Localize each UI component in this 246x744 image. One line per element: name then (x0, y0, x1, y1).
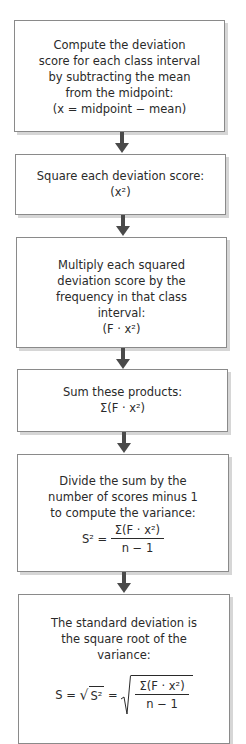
step-3-line-2: deviation score by the (17, 273, 226, 289)
sqrt-radicand: S² (89, 686, 105, 704)
arrow-down-icon (117, 572, 131, 593)
variance-numerator: Σ(F · x²) (111, 522, 164, 539)
step-4-box: Sum these products: Σ(F · x²) (17, 369, 228, 432)
stddev-eq: = (108, 688, 118, 702)
step-2-line-1: Square each deviation score: (16, 168, 225, 184)
stddev-numerator: Σ(F · x²) (135, 678, 188, 695)
step-6-line-2: the square root of the (19, 631, 229, 647)
step-6-line-1: The standard deviation is (19, 615, 229, 631)
step-5-line-1: Divide the sum by the (18, 473, 228, 489)
step-3-box: Multiply each squared deviation score by… (16, 237, 227, 348)
step-4-line-1: Sum these products: (18, 384, 227, 400)
stddev-fraction: Σ(F · x²) n − 1 (135, 678, 188, 712)
step-3-formula: (F · x²) (17, 321, 226, 337)
variance-fraction: Σ(F · x²) n − 1 (111, 522, 164, 556)
variance-denominator: n − 1 (111, 539, 164, 556)
arrow-down-icon (116, 348, 130, 369)
sqrt-fraction: Σ(F · x²) n − 1 (121, 675, 192, 715)
step-5-line-2: number of scores minus 1 (18, 489, 228, 505)
step-6-box: The standard deviation is the square roo… (18, 594, 230, 744)
step-5-formula: S² = Σ(F · x²) n − 1 (18, 522, 228, 556)
arrow-down-icon (115, 132, 129, 153)
step-6-line-3: variance: (19, 647, 229, 663)
step-2-formula: (x²) (16, 184, 225, 200)
step-1-line-1: Compute the deviation (15, 37, 224, 53)
big-sqrt-icon (121, 675, 131, 715)
step-1-line-3: by subtracting the mean (15, 69, 224, 85)
step-1-line-4: from the midpoint: (15, 85, 224, 101)
step-3-line-1: Multiply each squared (17, 257, 226, 273)
arrow-down-icon (117, 432, 131, 453)
stddev-denominator: n − 1 (135, 695, 188, 712)
step-5-line-3: to compute the variance: (18, 505, 228, 521)
sqrt-variance: √S² (80, 686, 105, 704)
step-6-formula: S = √S² = Σ(F · x²) n − 1 (19, 675, 229, 715)
step-1-line-2: score for each class interval (15, 53, 224, 69)
variance-lhs: S² = (82, 532, 107, 546)
sqrt-icon: √ (80, 687, 89, 703)
step-1-formula: (x = midpoint − mean) (15, 101, 224, 117)
stddev-lhs: S = (55, 688, 76, 702)
step-5-box: Divide the sum by the number of scores m… (17, 454, 229, 572)
arrow-down-icon (116, 215, 130, 236)
step-3-line-4: interval: (17, 305, 226, 321)
step-3-line-3: frequency in that class (17, 289, 226, 305)
step-2-box: Square each deviation score: (x²) (15, 154, 226, 215)
step-4-formula: Σ(F · x²) (18, 400, 227, 416)
step-1-box: Compute the deviation score for each cla… (14, 20, 225, 132)
